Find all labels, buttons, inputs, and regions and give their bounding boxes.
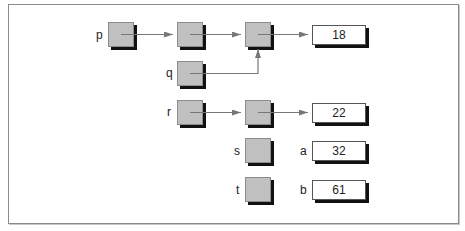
pointer-box-node1 <box>177 22 203 47</box>
value-box-a: 32 <box>312 141 366 161</box>
diagram-frame <box>8 4 459 224</box>
label-t: t <box>236 183 239 197</box>
pointer-box-t <box>245 177 271 202</box>
label-a: a <box>300 144 307 158</box>
pointer-box-node2 <box>245 22 271 47</box>
label-q: q <box>166 66 173 80</box>
pointer-box-node3 <box>245 100 271 125</box>
label-b: b <box>300 183 307 197</box>
label-p: p <box>96 28 103 42</box>
label-r: r <box>167 105 171 119</box>
pointer-box-r <box>177 100 203 125</box>
pointer-box-p <box>108 22 134 47</box>
value-box-18: 18 <box>312 25 366 45</box>
pointer-box-s <box>245 138 271 163</box>
label-s: s <box>234 144 240 158</box>
value-box-22: 22 <box>312 103 366 123</box>
value-box-b: 61 <box>312 180 366 200</box>
pointer-box-q <box>177 61 203 86</box>
